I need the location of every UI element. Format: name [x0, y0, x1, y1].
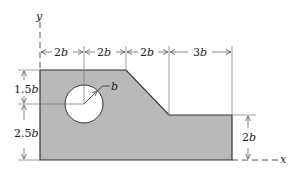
- dim-label-1: 2b: [54, 46, 68, 59]
- dim-label-2: 2b: [97, 46, 111, 59]
- dim-label-1-5b: 1.5b: [14, 83, 39, 96]
- dim-label-2-5b: 2.5b: [14, 127, 39, 140]
- radius-label: b: [111, 80, 118, 93]
- dim-label-4: 3b: [193, 46, 207, 59]
- x-axis-label: x: [280, 153, 287, 166]
- area-diagram: y x 2b 2b 2b 3b 1.5b 2.5b 2b b: [0, 0, 298, 171]
- dim-label-3: 2b: [140, 46, 154, 59]
- dim-label-2b-right: 2b: [242, 131, 256, 144]
- y-axis-label: y: [35, 10, 43, 23]
